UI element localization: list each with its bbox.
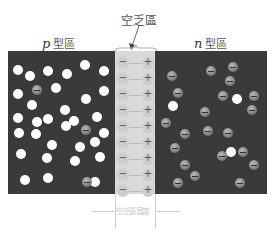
- electron-dot: [203, 126, 213, 136]
- hole-dot: [90, 137, 100, 147]
- electron-dot: [235, 178, 245, 188]
- negative-ion-icon: −: [117, 185, 129, 197]
- hole-dot: [43, 66, 53, 76]
- n-variable: n: [194, 36, 202, 51]
- hole-dot: [61, 121, 71, 131]
- electron-dot: [180, 129, 190, 139]
- electron-dot: [228, 62, 238, 72]
- hole-dot: [226, 147, 236, 157]
- ion-pair-link: [130, 95, 141, 96]
- ion-pair-link: [130, 127, 141, 128]
- depletion-width-label: 空乏區寬度: [116, 205, 149, 216]
- hole-dot: [232, 94, 242, 104]
- negative-ion-icon: −: [117, 57, 129, 69]
- hole-dot: [92, 112, 102, 122]
- p-region-label: p型區: [42, 35, 75, 51]
- electron-dot: [223, 128, 233, 138]
- hole-dot: [81, 94, 91, 104]
- positive-ion-icon: +: [142, 121, 154, 133]
- electron-dot: [206, 66, 216, 76]
- electron-dot: [238, 147, 248, 157]
- hole-dot: [99, 128, 109, 138]
- hole-dot: [32, 117, 42, 127]
- hole-dot: [43, 173, 53, 183]
- ion-pair-link: [130, 79, 141, 80]
- electron-dot: [218, 91, 228, 101]
- positive-ion-icon: +: [142, 57, 154, 69]
- hole-dot: [99, 66, 109, 76]
- ion-pair-link: [130, 143, 141, 144]
- hole-dot: [42, 153, 52, 163]
- hole-dot: [14, 128, 24, 138]
- hole-dot: [80, 60, 90, 70]
- electron-dot: [190, 171, 200, 181]
- hole-dot: [168, 101, 178, 111]
- electron-dot: [170, 143, 180, 153]
- electron-dot: [180, 160, 190, 170]
- hole-dot: [20, 175, 30, 185]
- width-marker-right: [155, 194, 156, 228]
- hole-dot: [31, 129, 41, 139]
- hole-dot: [70, 156, 80, 166]
- width-arrow-right: [157, 211, 179, 212]
- negative-ion-icon: −: [117, 105, 129, 117]
- hole-dot: [51, 83, 61, 93]
- hole-dot: [13, 113, 23, 123]
- hole-dot: [25, 71, 35, 81]
- hole-dot: [75, 142, 85, 152]
- ion-pair-link: [130, 159, 141, 160]
- electron-dot: [225, 76, 235, 86]
- ion-pair-link: [130, 111, 141, 112]
- positive-ion-icon: +: [142, 153, 154, 165]
- hole-dot: [27, 100, 37, 110]
- positive-ion-icon: +: [142, 137, 154, 149]
- hole-dot: [47, 140, 57, 150]
- hole-dot: [62, 69, 72, 79]
- electron-dot: [249, 91, 259, 101]
- electron-dot: [32, 85, 42, 95]
- hole-dot: [95, 152, 105, 162]
- electron-dot: [200, 107, 210, 117]
- negative-ion-icon: −: [117, 137, 129, 149]
- hole-dot: [99, 86, 109, 96]
- n-region-label: n型區: [194, 35, 227, 51]
- negative-ion-icon: −: [117, 73, 129, 85]
- negative-ion-icon: −: [117, 153, 129, 165]
- positive-ion-icon: +: [142, 73, 154, 85]
- ion-pair-link: [130, 63, 141, 64]
- positive-ion-icon: +: [142, 105, 154, 117]
- negative-ion-icon: −: [117, 89, 129, 101]
- electron-dot: [167, 71, 177, 81]
- p-region-text: 型區: [53, 38, 75, 51]
- width-arrow-left: [92, 211, 114, 212]
- hole-dot: [43, 114, 53, 124]
- ion-pair-link: [130, 175, 141, 176]
- n-region-text: 型區: [205, 38, 227, 51]
- electron-dot: [247, 105, 257, 115]
- hole-dot: [60, 105, 70, 115]
- negative-ion-icon: −: [117, 169, 129, 181]
- negative-ion-icon: −: [117, 121, 129, 133]
- hole-dot: [13, 65, 23, 75]
- electron-dot: [173, 88, 183, 98]
- electron-dot: [81, 125, 91, 135]
- ion-pair-link: [130, 191, 141, 192]
- hole-dot: [16, 149, 26, 159]
- positive-ion-icon: +: [142, 169, 154, 181]
- positive-ion-icon: +: [142, 89, 154, 101]
- electron-dot: [161, 118, 171, 128]
- hole-dot: [13, 89, 23, 99]
- electron-dot: [173, 178, 183, 188]
- electron-dot: [82, 177, 92, 187]
- positive-ion-icon: +: [142, 185, 154, 197]
- p-variable: p: [42, 36, 50, 51]
- electron-dot: [249, 160, 259, 170]
